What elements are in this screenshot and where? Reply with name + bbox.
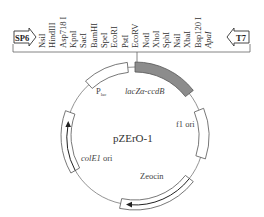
site-label: PstI: [120, 35, 130, 48]
f1-ori-box: [194, 108, 209, 159]
sp6-label: SP6: [15, 33, 29, 43]
site-label: NsiI: [172, 33, 182, 48]
site-label: EcoRI: [109, 26, 119, 48]
site-label: NotI: [141, 32, 151, 48]
plac-label: Plac: [96, 86, 107, 97]
site-label: ApaI: [203, 30, 213, 49]
site-label: BamHI: [89, 23, 99, 48]
site-label: SphI: [161, 32, 171, 48]
cole1-ori-box: [61, 111, 80, 173]
cole1-ori-label: colE1 ori: [81, 153, 113, 163]
t7-promoter-arrow: T7: [227, 28, 249, 46]
site-label: SpeI: [99, 32, 109, 48]
zeocin-label: Zeocin: [140, 171, 164, 181]
plasmid-name: pZErO-1: [113, 132, 153, 144]
site-label: KpnI: [68, 30, 78, 48]
plac-box: [86, 62, 129, 88]
site-label: XbaI: [182, 31, 192, 48]
plasmid-map: SP6 T7 NsiI HindIII Asp718 I KpnI SacI B…: [0, 0, 264, 217]
site-label: HindIII: [47, 22, 57, 48]
sp6-promoter-arrow: SP6: [14, 28, 36, 46]
site-label: EcoRV: [130, 23, 140, 48]
mcs-sites: NsiI HindIII Asp718 I KpnI SacI BamHI Sp…: [37, 16, 213, 49]
lacz-ccdb-label: lacZα-ccdB: [125, 86, 164, 96]
site-label: SacI: [78, 33, 88, 48]
site-label: XhoI: [151, 30, 161, 48]
site-label: NsiI: [37, 33, 47, 48]
site-label: Asp718 I: [58, 16, 68, 48]
site-label: Bsp120 I: [193, 17, 203, 48]
t7-label: T7: [236, 33, 247, 43]
f1-ori-label: f1 ori: [176, 119, 195, 129]
